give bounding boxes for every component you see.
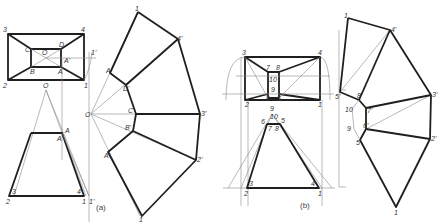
label: 3' [201, 110, 207, 117]
label: 4 [77, 188, 81, 195]
label: 4 [81, 26, 85, 33]
panel-a: 3 4 2 1 C D O B A A' 1' O A A' 3 4 2 1 1… [2, 5, 207, 223]
label: 7' [367, 107, 373, 114]
label: O [43, 82, 49, 89]
label: 4 [311, 180, 315, 187]
label: 2 [2, 82, 7, 89]
label: 8 [276, 64, 280, 71]
label: A [105, 67, 111, 74]
development-b: 1 4' 5' 8' 3' 10 7' 9 6' 5 2' 1 [335, 12, 438, 216]
technical-drawing: 3 4 2 1 C D O B A A' 1' O A A' 3 4 2 1 1… [0, 0, 447, 224]
label: A' [56, 135, 64, 142]
label: 6 [266, 95, 270, 102]
label: 9 [270, 105, 274, 112]
label: 9 [271, 86, 275, 93]
label: A [57, 68, 63, 75]
panel-b: 3 4 2 1 7 8 10 9 6 5 9 10 6 5 7 8 3 4 [222, 12, 438, 216]
label: 5 [281, 117, 285, 124]
label: 3 [242, 49, 246, 56]
label: D' [123, 85, 130, 92]
label: 1 [135, 5, 139, 12]
label: 1 [139, 216, 143, 223]
label: 1' [91, 49, 97, 56]
label: A' [103, 152, 111, 159]
label: 1 [394, 209, 398, 216]
label: O [42, 49, 48, 56]
label: 7 [268, 125, 273, 132]
label: 2 [244, 101, 249, 108]
caption-a: (a) [96, 203, 106, 212]
label: 2' [430, 135, 437, 142]
label: 3' [432, 91, 438, 98]
label: 4 [318, 49, 322, 56]
label: 2 [5, 198, 10, 205]
label: 1 [318, 101, 322, 108]
label: 1' [89, 198, 95, 205]
label: C' [128, 107, 135, 114]
label: 3 [12, 188, 16, 195]
development-a: 1 4' A D' O C' 3' B' A' 2' 1 [85, 5, 207, 223]
label: 8' [357, 92, 363, 99]
label: 4' [391, 26, 397, 33]
label: 7 [266, 64, 271, 71]
label: 3 [249, 180, 253, 187]
label: 1 [318, 190, 322, 197]
label: 9 [347, 125, 351, 132]
label: 5 [277, 95, 281, 102]
elevation-view-a: O A A' 3 4 2 1 1' [5, 82, 95, 205]
label: 6' [363, 122, 369, 129]
label: 1 [84, 82, 88, 89]
label: A' [63, 57, 71, 64]
label: A [64, 127, 70, 134]
label: 1 [344, 12, 348, 19]
label: 2 [243, 190, 248, 197]
label: B [30, 68, 35, 75]
label: B' [125, 124, 132, 131]
label: 5 [356, 139, 360, 146]
caption-b: (b) [300, 201, 310, 210]
label: 1 [82, 198, 86, 205]
label: 3 [3, 26, 7, 33]
label: 10 [270, 113, 278, 120]
elevation-view-b: 9 10 6 5 7 8 3 4 2 1 [223, 105, 335, 197]
label: 5' [335, 93, 341, 100]
label: 6 [261, 118, 265, 125]
label: D [59, 41, 64, 48]
label: 10 [269, 76, 277, 83]
label: 4' [177, 35, 183, 42]
label: 8 [275, 125, 279, 132]
label: O [85, 111, 91, 118]
label: 10 [345, 106, 353, 113]
label: 2' [196, 156, 203, 163]
